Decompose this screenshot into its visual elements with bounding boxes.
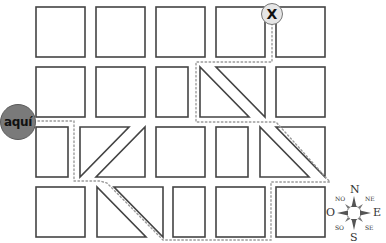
block-r2-c3 [156, 67, 188, 117]
compass-east: E [373, 207, 381, 218]
destination-marker: X [261, 3, 283, 25]
block-r1-c2 [96, 7, 145, 57]
compass-northwest: NO [335, 196, 345, 202]
compass-southwest: SO [335, 225, 344, 231]
block-r3-c4 [216, 127, 248, 177]
block-r2-c5 [276, 67, 325, 117]
compass-west: O [326, 207, 335, 218]
compass-southeast: SE [365, 225, 374, 231]
block-r4-c5 [276, 187, 325, 237]
destination-label: X [267, 6, 278, 22]
block-r1-c4 [216, 7, 265, 57]
block-r1-c3 [156, 7, 205, 57]
block-r2-c2 [96, 67, 145, 117]
block-r4-c4 [216, 187, 265, 237]
start-marker: aquí [0, 104, 36, 140]
compass-northeast: NE [365, 196, 375, 202]
block-r3-c3 [156, 127, 205, 177]
block-r4-c3 [173, 187, 205, 237]
compass-north: N [350, 184, 360, 195]
compass-south: S [350, 232, 358, 243]
block-r1-c1 [36, 7, 85, 57]
block-r4-c1 [36, 187, 85, 237]
start-label: aquí [4, 115, 32, 129]
block-r1-c5 [276, 7, 325, 57]
block-r2-c1 [36, 67, 85, 117]
block-r3-c1 [36, 127, 68, 177]
